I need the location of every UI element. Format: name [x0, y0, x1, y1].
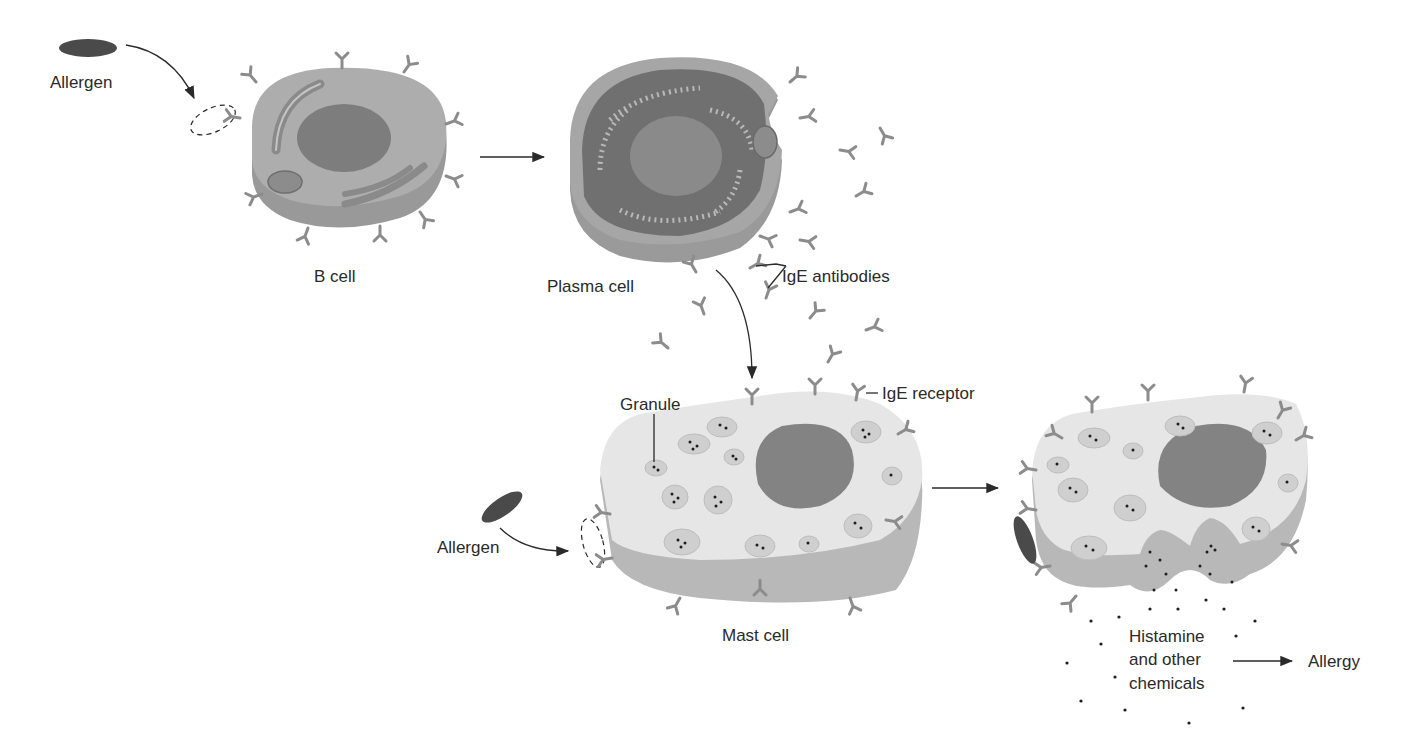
- allergen-bottom-label: Allergen: [437, 538, 499, 557]
- plasma-to-mast-arrow: [716, 270, 752, 378]
- binding-site-outline-bottom: [577, 516, 609, 569]
- binding-site-outline-top: [186, 99, 240, 141]
- allergy-label: Allergy: [1308, 652, 1360, 671]
- allergy-diagram: Allergen B cell: [0, 0, 1423, 748]
- histamine-label-line3: chemicals: [1129, 674, 1205, 693]
- degranulating-mast-cell: [1020, 376, 1312, 611]
- plasma-cell-label: Plasma cell: [547, 277, 634, 296]
- ige-receptor-label: IgE receptor: [882, 384, 975, 403]
- allergen-top-label: Allergen: [50, 73, 112, 92]
- ige-antibodies-label: IgE antibodies: [782, 267, 890, 286]
- allergen-to-bcell-arrow: [126, 45, 194, 98]
- allergen-top: [59, 39, 117, 57]
- granule-label: Granule: [620, 395, 680, 414]
- mast-cell: [594, 379, 922, 614]
- allergen-bottom: [477, 486, 527, 528]
- plasma-cell: [570, 57, 893, 262]
- mast-cell-label: Mast cell: [722, 626, 789, 645]
- b-cell-label: B cell: [314, 267, 356, 286]
- allergen-to-mast-arrow: [500, 528, 568, 551]
- histamine-label-line1: Histamine: [1129, 627, 1205, 646]
- histamine-label-line2: and other: [1129, 650, 1201, 669]
- b-cell: [224, 53, 462, 244]
